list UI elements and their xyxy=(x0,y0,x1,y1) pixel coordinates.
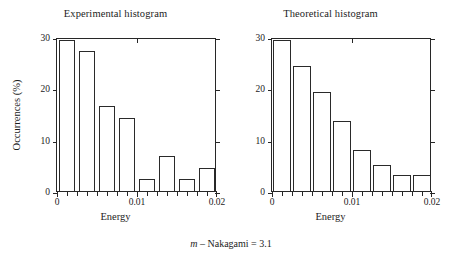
x-tick-minor xyxy=(342,191,343,196)
x-tick-minor xyxy=(107,191,108,196)
bar xyxy=(413,175,430,191)
x-tick-minor xyxy=(147,191,148,196)
bar xyxy=(179,179,195,191)
bar xyxy=(99,106,115,191)
x-tick-minor xyxy=(87,191,88,196)
bar xyxy=(293,66,310,191)
x-tick-minor xyxy=(382,191,383,196)
x-tick-minor xyxy=(207,191,208,196)
figure-caption: m – Nakagami = 3.1 xyxy=(0,238,462,249)
bar xyxy=(159,156,175,191)
plot-frame-theoretical: 010203000.010.02 xyxy=(271,38,431,192)
bar xyxy=(373,165,390,191)
x-tick-top xyxy=(137,39,138,43)
y-tick-label: 30 xyxy=(41,34,51,44)
x-tick-minor xyxy=(127,191,128,196)
x-tick-minor xyxy=(422,191,423,196)
y-tick xyxy=(53,142,58,143)
bar xyxy=(79,51,95,191)
x-axis-title-experimental: Energy xyxy=(0,211,231,222)
x-tick-minor xyxy=(77,191,78,196)
x-tick-label: 0.01 xyxy=(129,198,146,208)
x-tick-minor xyxy=(97,191,98,196)
x-tick-minor xyxy=(117,191,118,196)
x-tick-label: 0.02 xyxy=(424,198,441,208)
x-tick-minor xyxy=(282,191,283,196)
x-tick-minor xyxy=(372,191,373,196)
x-tick-minor xyxy=(187,191,188,196)
y-tick-mirror xyxy=(430,90,435,91)
y-tick-label: 20 xyxy=(41,86,51,96)
x-tick-minor xyxy=(197,191,198,196)
y-tick-label: 10 xyxy=(256,137,266,147)
x-tick-minor xyxy=(322,191,323,196)
x-tick-minor xyxy=(392,191,393,196)
y-axis-title-experimental: Occurrences (%) xyxy=(11,80,22,151)
y-tick-label: 10 xyxy=(41,137,51,147)
caption-text: – Nakagami = 3.1 xyxy=(198,238,272,249)
y-tick xyxy=(268,39,273,40)
x-tick-minor xyxy=(177,191,178,196)
x-tick-minor xyxy=(402,191,403,196)
y-tick-mirror xyxy=(430,142,435,143)
caption-symbol: m xyxy=(190,238,197,249)
bar xyxy=(333,121,350,191)
x-tick-minor xyxy=(167,191,168,196)
y-tick-label: 30 xyxy=(256,34,266,44)
y-tick xyxy=(268,90,273,91)
x-tick-minor xyxy=(302,191,303,196)
panel-theoretical: Theoretical histogram 010203000.010.02 E… xyxy=(215,0,446,232)
bar-series-theoretical xyxy=(272,39,430,191)
x-tick-label: 0 xyxy=(55,198,60,208)
plot-frame-experimental: 010203000.010.02 xyxy=(56,38,216,192)
x-axis-title-theoretical: Energy xyxy=(215,211,446,222)
x-tick-label: 0 xyxy=(270,198,275,208)
bar xyxy=(139,179,155,191)
x-tick-minor xyxy=(312,191,313,196)
x-tick-label: 0.01 xyxy=(344,198,361,208)
figure-nakagami-histograms: Experimental histogram Occurrences (%) 0… xyxy=(0,0,462,259)
bar xyxy=(59,40,75,191)
x-tick-minor xyxy=(332,191,333,196)
bar xyxy=(199,168,215,191)
bar-series-experimental xyxy=(57,39,215,191)
x-tick-minor xyxy=(412,191,413,196)
y-tick-label: 20 xyxy=(256,86,266,96)
bar xyxy=(393,175,410,191)
y-tick xyxy=(53,90,58,91)
y-tick xyxy=(53,39,58,40)
bar xyxy=(313,92,330,191)
panel-title-theoretical: Theoretical histogram xyxy=(215,8,446,19)
x-tick-minor xyxy=(292,191,293,196)
y-tick-label: 0 xyxy=(45,188,50,198)
bar xyxy=(273,40,290,191)
x-tick-minor xyxy=(67,191,68,196)
y-tick xyxy=(268,142,273,143)
x-tick-minor xyxy=(157,191,158,196)
panel-title-experimental: Experimental histogram xyxy=(0,8,231,19)
y-tick-label: 0 xyxy=(260,188,265,198)
x-tick-top xyxy=(352,39,353,43)
y-tick-mirror xyxy=(430,39,435,40)
bar xyxy=(119,118,135,191)
bar xyxy=(353,150,370,191)
panel-experimental: Experimental histogram Occurrences (%) 0… xyxy=(0,0,231,232)
x-tick-minor xyxy=(362,191,363,196)
